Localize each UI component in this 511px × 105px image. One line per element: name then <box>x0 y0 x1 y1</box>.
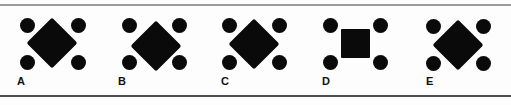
corner-dot <box>172 55 187 70</box>
corner-dot <box>426 56 441 71</box>
corner-dot <box>20 55 35 70</box>
corner-dot <box>323 18 338 33</box>
corner-dot <box>272 55 287 70</box>
corner-dot <box>476 56 491 71</box>
corner-dot <box>373 18 388 33</box>
corner-dot <box>20 18 35 33</box>
corner-dot <box>71 55 86 70</box>
item-label-c: C <box>221 76 229 87</box>
corner-dot <box>172 18 187 33</box>
corner-dot <box>272 18 287 33</box>
corner-dot <box>122 18 137 33</box>
item-label-b: B <box>118 76 126 87</box>
corner-dot <box>323 55 338 70</box>
corner-dot <box>373 55 388 70</box>
corner-dot <box>71 18 86 33</box>
center-square-shape <box>341 29 370 58</box>
corner-dot <box>222 18 237 33</box>
shape-item-b <box>101 0 202 105</box>
item-label-a: A <box>17 76 25 87</box>
shape-comparison-figure: ABCDE <box>0 0 511 105</box>
shape-item-a <box>0 0 101 105</box>
corner-dot <box>426 19 441 34</box>
shape-item-d <box>304 0 405 105</box>
item-label-d: D <box>322 76 330 87</box>
corner-dot <box>122 55 137 70</box>
shape-item-c <box>203 0 304 105</box>
item-label-e: E <box>426 76 434 87</box>
shape-item-e <box>406 0 507 105</box>
corner-dot <box>222 55 237 70</box>
corner-dot <box>476 19 491 34</box>
